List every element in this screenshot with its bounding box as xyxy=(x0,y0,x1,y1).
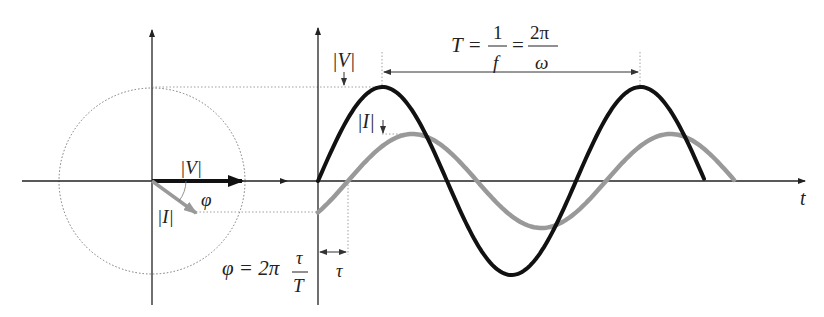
svg-text:T =: T = xyxy=(451,33,482,57)
waveform-section: |V| |I| t τ T = 1 f = 2π ω φ = 2π τ T xyxy=(222,22,806,305)
svg-text:τ: τ xyxy=(296,248,303,268)
phase-angle-arc xyxy=(179,181,186,201)
phasor-current-label: |I| xyxy=(157,206,174,227)
current-peak-label: |I| xyxy=(357,110,375,133)
svg-text:f: f xyxy=(493,52,501,73)
time-axis-label: t xyxy=(800,187,806,209)
tau-label: τ xyxy=(336,261,343,281)
svg-text:1: 1 xyxy=(493,22,503,43)
phasor-voltage-label: |V| xyxy=(180,157,202,178)
period-formula: T = 1 f = 2π ω xyxy=(451,22,558,73)
phase-formula: φ = 2π τ T xyxy=(222,248,308,296)
svg-text:2π: 2π xyxy=(530,22,550,43)
svg-text:ω: ω xyxy=(535,52,548,73)
voltage-peak-label: |V| xyxy=(332,49,355,72)
svg-text:=: = xyxy=(512,33,524,57)
phasor-diagram: |V| |I| φ |V| |I| t τ T = 1 f = 2π xyxy=(0,0,824,317)
phasor-angle-label: φ xyxy=(201,189,212,210)
svg-text:T: T xyxy=(293,275,305,296)
svg-text:φ = 2π: φ = 2π xyxy=(222,256,280,280)
projection-lines xyxy=(152,52,640,255)
